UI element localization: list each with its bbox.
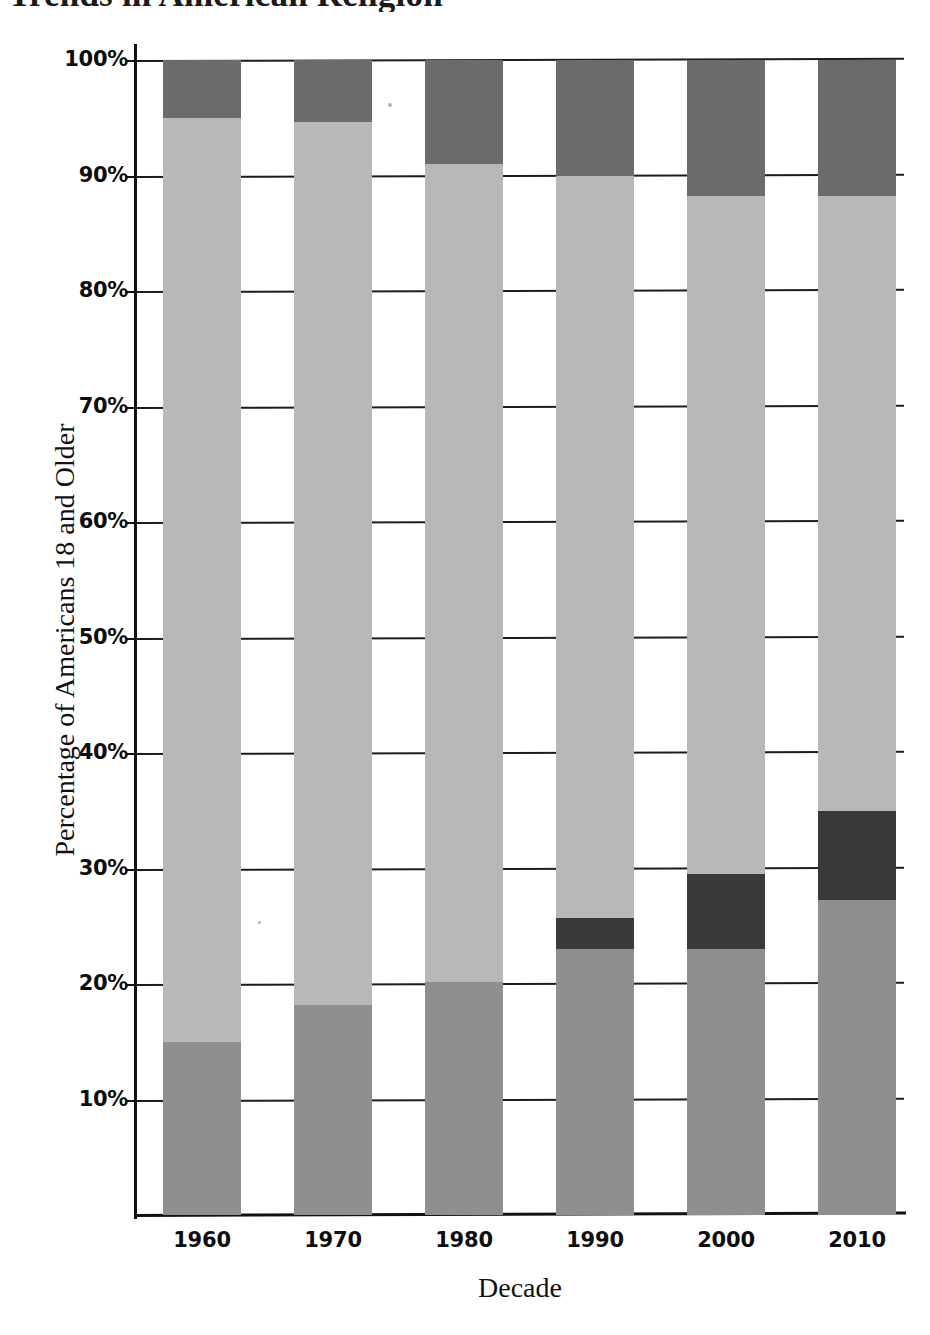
bar-segment-2010-segment-3-light[interactable] xyxy=(818,196,896,810)
gridline-50% xyxy=(136,635,904,639)
y-tick-label-100%: 100% xyxy=(48,49,128,70)
bar-segment-2000-segment-4-top[interactable] xyxy=(687,60,765,196)
x-tick-label-2010: 2010 xyxy=(792,1228,922,1252)
gridline-10% xyxy=(136,1097,904,1101)
x-tick-label-1980: 1980 xyxy=(399,1228,529,1252)
bar-segment-1970-segment-1-bottom[interactable] xyxy=(294,1005,372,1215)
x-axis-title: Decade xyxy=(136,1272,904,1304)
chart-title: Trends in American Religion xyxy=(0,0,930,12)
bar-segment-1960-segment-1-bottom[interactable] xyxy=(163,1042,241,1215)
bar-segment-1980-segment-4-top[interactable] xyxy=(425,60,503,164)
gridline-30% xyxy=(136,866,904,870)
gridline-20% xyxy=(136,982,904,986)
x-tick-label-1990: 1990 xyxy=(530,1228,660,1252)
y-tick-label-90%: 90% xyxy=(48,165,128,186)
x-tick-label-1970: 1970 xyxy=(268,1228,398,1252)
bar-segment-1970-segment-3-light[interactable] xyxy=(294,122,372,1004)
x-tick-label-1960: 1960 xyxy=(137,1228,267,1252)
scan-speck xyxy=(258,921,261,924)
y-tick-label-10%: 10% xyxy=(48,1089,128,1110)
bar-segment-2010-segment-4-top[interactable] xyxy=(818,60,896,196)
gridline-100% xyxy=(136,58,904,62)
bar-2010[interactable] xyxy=(818,60,896,1215)
bar-1960[interactable] xyxy=(163,60,241,1215)
bar-segment-1990-segment-4-top[interactable] xyxy=(556,60,634,176)
gridline-40% xyxy=(136,751,904,755)
y-axis-title: Percentage of Americans 18 and Older xyxy=(50,290,80,990)
bar-segment-2010-segment-1-bottom[interactable] xyxy=(818,900,896,1215)
gridline-90% xyxy=(136,173,904,177)
bar-segment-2010-segment-2-darkest[interactable] xyxy=(818,811,896,900)
bar-1980[interactable] xyxy=(425,60,503,1215)
gridline-60% xyxy=(136,520,904,524)
bar-segment-1990-segment-3-light[interactable] xyxy=(556,176,634,919)
bar-segment-1960-segment-4-top[interactable] xyxy=(163,60,241,118)
bar-segment-2000-segment-3-light[interactable] xyxy=(687,196,765,874)
bar-segment-1980-segment-1-bottom[interactable] xyxy=(425,982,503,1215)
bar-segment-1990-segment-1-bottom[interactable] xyxy=(556,949,634,1215)
bar-2000[interactable] xyxy=(687,60,765,1215)
bar-segment-1990-segment-2-darkest[interactable] xyxy=(556,918,634,949)
x-tick-label-2000: 2000 xyxy=(661,1228,791,1252)
gridline-80% xyxy=(136,289,904,293)
bar-segment-1980-segment-3-light[interactable] xyxy=(425,164,503,982)
scan-speck xyxy=(388,103,392,107)
bar-segment-1970-segment-4-top[interactable] xyxy=(294,60,372,122)
bar-1970[interactable] xyxy=(294,60,372,1215)
bar-segment-1960-segment-3-light[interactable] xyxy=(163,118,241,1042)
plot-area xyxy=(136,60,904,1215)
bar-1990[interactable] xyxy=(556,60,634,1215)
bar-segment-2000-segment-1-bottom[interactable] xyxy=(687,949,765,1215)
bar-segment-2000-segment-2-darkest[interactable] xyxy=(687,874,765,949)
gridline-70% xyxy=(136,404,904,408)
